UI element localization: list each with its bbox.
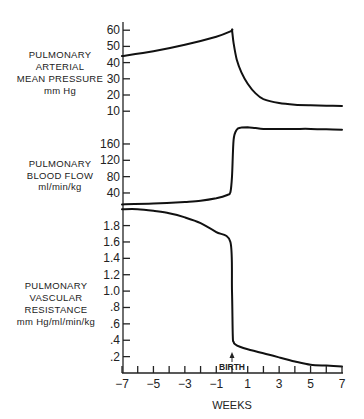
panel-label-line: PULMONARY bbox=[25, 280, 88, 291]
panel-label-line: BLOOD FLOW bbox=[27, 170, 93, 181]
y-tick-label: 160 bbox=[100, 137, 120, 151]
panel-label-line: ml/min/kg bbox=[38, 181, 81, 192]
y-tick-label: 30 bbox=[107, 72, 121, 86]
y-tick-label: 1.0 bbox=[103, 284, 120, 298]
panel-label-line: PULMONARY bbox=[29, 49, 92, 60]
y-tick-label: 1.6 bbox=[103, 235, 120, 249]
y-tick-label: 50 bbox=[107, 39, 121, 53]
chart-svg: PULMONARYARTERIALMEAN PRESSUREmm HgPULMO… bbox=[0, 0, 364, 419]
series-line-2 bbox=[122, 209, 342, 366]
arrow-head bbox=[230, 352, 235, 358]
x-tick-label: −5 bbox=[147, 377, 161, 391]
panel-label-line: PULMONARY bbox=[29, 158, 92, 169]
y-tick-label: 10 bbox=[107, 104, 121, 118]
panel-label-line: MEAN PRESSURE bbox=[17, 73, 103, 84]
y-tick-label: 40 bbox=[107, 186, 121, 200]
panel-label-line: mm Hg/ml/min/kg bbox=[17, 316, 95, 327]
panel-label-line: ARTERIAL bbox=[36, 61, 85, 72]
y-tick-label: 120 bbox=[100, 153, 120, 167]
y-tick-label: .8 bbox=[110, 300, 120, 314]
y-tick-label: .2 bbox=[110, 350, 120, 364]
y-tick-label: .4 bbox=[110, 333, 120, 347]
panel-label-line: RESISTANCE bbox=[24, 304, 87, 315]
y-tick-label: 1.4 bbox=[103, 251, 120, 265]
y-tick-label: 40 bbox=[107, 56, 121, 70]
y-tick-label: 1.8 bbox=[103, 219, 120, 233]
x-tick-label: −7 bbox=[115, 377, 129, 391]
x-axis-label: WEEKS bbox=[212, 399, 252, 411]
y-tick-label: 80 bbox=[107, 170, 121, 184]
x-tick-label: −1 bbox=[209, 377, 223, 391]
x-tick-label: 7 bbox=[339, 377, 346, 391]
series-line-0 bbox=[122, 29, 342, 106]
x-tick-label: 1 bbox=[244, 377, 251, 391]
y-tick-label: 1.2 bbox=[103, 268, 120, 282]
panel-label-line: mm Hg bbox=[44, 85, 76, 96]
x-tick-label: 5 bbox=[307, 377, 314, 391]
y-tick-label: 20 bbox=[107, 88, 121, 102]
x-tick-label: 3 bbox=[276, 377, 283, 391]
panel-label-line: VASCULAR bbox=[30, 292, 83, 303]
x-tick-label: −3 bbox=[178, 377, 192, 391]
birth-annotation: BIRTH bbox=[219, 362, 245, 372]
y-tick-label: 60 bbox=[107, 23, 121, 37]
series-line-1 bbox=[122, 127, 342, 204]
y-tick-label: .6 bbox=[110, 317, 120, 331]
